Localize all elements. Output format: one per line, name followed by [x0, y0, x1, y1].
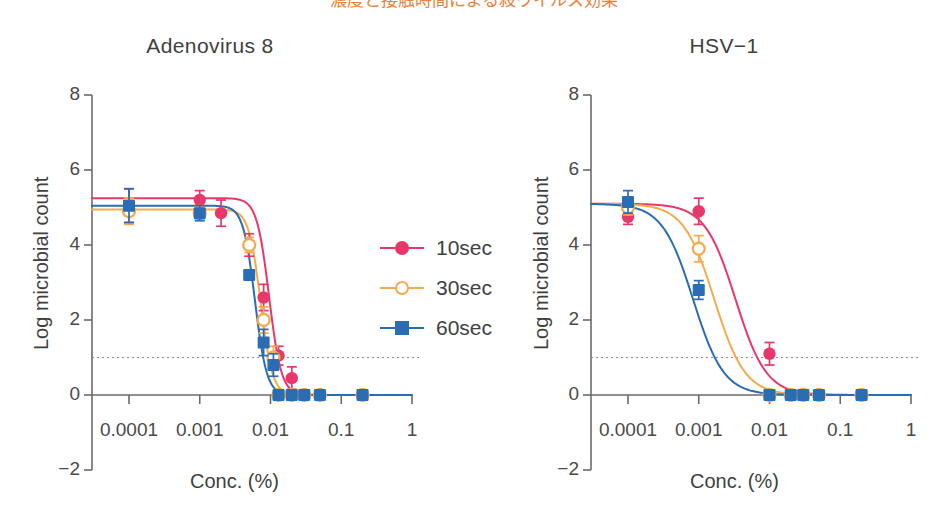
y-axis-title-left: Log microbial count: [30, 177, 53, 350]
legend-marker-10sec-icon: [380, 237, 424, 259]
y-tick-label: 0: [30, 383, 80, 405]
y-tick-label: −2: [30, 458, 80, 480]
panel-title-left: Adenovirus 8: [0, 34, 420, 58]
y-tick-label: 8: [529, 83, 579, 105]
x-axis-title-left: Conc. (%): [190, 470, 279, 493]
legend-marker-60sec-icon: [380, 317, 424, 339]
panel-hsv1: HSV−1: [500, 0, 948, 519]
legend-item-10sec[interactable]: 10sec: [380, 228, 492, 268]
legend-item-30sec[interactable]: 30sec: [380, 268, 492, 308]
plot-canvas-right: [500, 0, 948, 519]
x-tick-label: 1: [866, 419, 948, 441]
panel-title-right: HSV−1: [500, 34, 948, 58]
legend-item-60sec[interactable]: 60sec: [380, 308, 492, 348]
x-tick-label: 1: [367, 419, 457, 441]
legend-marker-30sec-icon: [380, 277, 424, 299]
x-axis-title-right: Conc. (%): [690, 470, 779, 493]
y-tick-label: −2: [529, 458, 579, 480]
figure-root: 濃度と接触時間による殺ウイルス効果 Adenovirus 8 HSV−1 10s…: [0, 0, 948, 519]
legend: 10sec 30sec 60sec: [380, 228, 492, 348]
legend-label-60sec: 60sec: [436, 316, 492, 340]
legend-label-10sec: 10sec: [436, 236, 492, 260]
y-tick-label: 8: [30, 83, 80, 105]
y-axis-title-right: Log microbial count: [530, 177, 553, 350]
y-tick-label: 0: [529, 383, 579, 405]
legend-label-30sec: 30sec: [436, 276, 492, 300]
